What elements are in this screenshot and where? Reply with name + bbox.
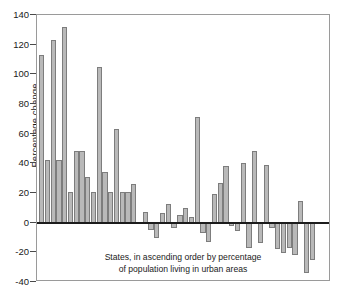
y-tick-label: -20: [15, 246, 29, 257]
plot-area: States, in ascending order by percentage…: [36, 14, 330, 281]
bar: [235, 223, 240, 231]
bar: [97, 67, 102, 223]
bar: [183, 208, 188, 223]
bar: [68, 192, 73, 223]
bar: [258, 223, 263, 244]
y-tick-label: 60: [18, 127, 29, 138]
zero-baseline: [37, 222, 329, 224]
bar: [281, 223, 286, 253]
bar: [39, 55, 44, 223]
bar: [148, 223, 153, 230]
bar: [246, 223, 251, 248]
bar: [114, 129, 119, 222]
bar: [206, 223, 211, 242]
bar: [85, 177, 90, 223]
annotation-line-2: of population living in urban areas: [37, 263, 329, 275]
bar: [79, 151, 84, 223]
y-tick-label: 80: [18, 98, 29, 109]
y-axis-tick-labels: 140120100806040200-20-40: [0, 0, 36, 293]
bar: [102, 172, 107, 222]
bar: [264, 165, 269, 223]
bar: [62, 27, 67, 223]
chart-figure: Percentage change 140120100806040200-20-…: [0, 0, 345, 293]
bar: [241, 163, 246, 223]
bar: [218, 183, 223, 222]
y-tick-label: -40: [15, 276, 29, 287]
bar: [223, 166, 228, 222]
bar: [275, 223, 280, 249]
y-tick-label: 120: [13, 38, 29, 49]
bar: [287, 223, 292, 248]
bar: [131, 184, 136, 223]
bar: [298, 201, 303, 223]
bar: [120, 192, 125, 223]
bar: [108, 192, 113, 223]
annotation-line-1: States, in ascending order by percentage: [37, 251, 329, 263]
bar: [51, 40, 56, 222]
bar: [125, 192, 130, 222]
bar: [91, 192, 96, 223]
y-tick-label: 0: [24, 216, 29, 227]
y-tick-label: 40: [18, 157, 29, 168]
y-tick-label: 140: [13, 9, 29, 20]
y-tick-label: 100: [13, 68, 29, 79]
chart-annotation: States, in ascending order by percentage…: [37, 251, 329, 275]
bar: [200, 223, 205, 233]
y-tick-label: 20: [18, 187, 29, 198]
y-tick-mark: [30, 281, 36, 282]
bar: [166, 204, 171, 223]
bar: [195, 117, 200, 223]
bar: [74, 151, 79, 223]
bar: [154, 223, 159, 239]
bar: [56, 160, 61, 222]
bar: [45, 160, 50, 222]
bar-series: [37, 15, 329, 280]
bar: [252, 151, 257, 222]
bar: [212, 194, 217, 222]
